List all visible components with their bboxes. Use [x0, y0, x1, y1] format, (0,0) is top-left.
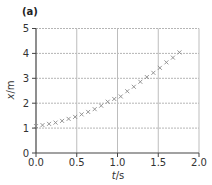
data-point-marker	[119, 94, 123, 98]
x-tick-label: 0.0	[28, 157, 44, 168]
y-tick-label: 1	[23, 123, 29, 134]
x-tick-label: 1.0	[110, 157, 126, 168]
scatter-chart: 0123450.00.51.01.52.0 t/s x/m	[0, 0, 212, 185]
data-point-marker	[67, 117, 71, 121]
y-tick-label: 5	[23, 23, 29, 34]
data-point-marker	[164, 60, 168, 64]
data-point-marker	[132, 85, 136, 89]
data-point-marker	[86, 110, 90, 114]
y-tick-label: 3	[23, 73, 29, 84]
data-point-marker	[151, 71, 155, 75]
y-axis-label: x/m	[5, 80, 16, 100]
data-point-marker	[106, 100, 110, 104]
data-point-marker	[80, 112, 84, 116]
grid-lines	[36, 29, 199, 154]
y-tick-label: 4	[23, 48, 29, 59]
data-point-marker	[138, 80, 142, 84]
x-tick-label: 2.0	[191, 157, 207, 168]
data-point-marker	[47, 122, 51, 126]
data-point-marker	[99, 104, 103, 108]
data-point-marker	[145, 75, 149, 79]
data-point-marker	[171, 56, 175, 60]
x-axis-label: t/s	[112, 170, 125, 181]
data-point-marker	[112, 97, 116, 101]
data-points	[34, 50, 181, 128]
axes	[32, 29, 199, 158]
data-point-marker	[177, 50, 181, 54]
data-point-marker	[125, 89, 129, 93]
x-tick-label: 0.5	[69, 157, 85, 168]
data-point-marker	[54, 121, 58, 125]
y-tick-label: 2	[23, 98, 29, 109]
tick-labels: 0123450.00.51.01.52.0	[23, 23, 207, 168]
x-tick-label: 1.5	[150, 157, 166, 168]
data-point-marker	[60, 119, 64, 123]
data-point-marker	[41, 123, 45, 127]
data-point-marker	[93, 107, 97, 111]
